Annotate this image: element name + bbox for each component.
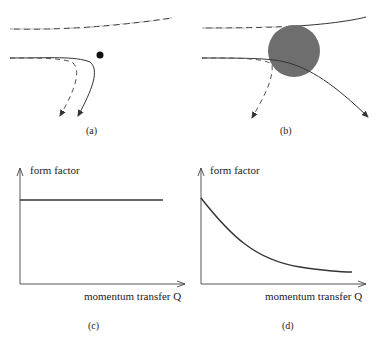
panel-a-point-scattering: [10, 18, 172, 116]
caption-a: (a): [86, 125, 97, 136]
xlabel-c: momentum transfer Q: [84, 290, 181, 302]
target-sphere: [268, 25, 320, 77]
panel-d-chart: [201, 168, 366, 284]
caption-d: (d): [282, 320, 294, 331]
panel-b-extended-scattering: [202, 17, 368, 118]
ylabel-c: form factor: [30, 164, 80, 176]
caption-c: (c): [88, 320, 99, 331]
xlabel-d: momentum transfer Q: [265, 290, 362, 302]
panel-c-chart: [20, 168, 185, 284]
ylabel-d: form factor: [210, 164, 260, 176]
point-target: [97, 52, 104, 59]
decaying-form-factor-curve: [201, 198, 352, 272]
caption-b: (b): [280, 125, 292, 136]
